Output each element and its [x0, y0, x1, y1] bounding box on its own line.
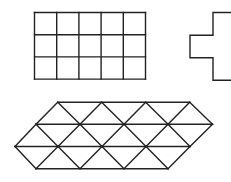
- triangle-diagonal-down-left: [36, 102, 58, 124]
- triangle-diagonal-down-right: [15, 147, 36, 169]
- cross-figure: [190, 13, 231, 81]
- triangle-diagonal-down-left: [190, 124, 213, 146]
- triangle-diagonal-down-left: [58, 124, 80, 146]
- triangle-diagonal-down-right: [146, 147, 168, 169]
- triangle-diagonal-down-left: [146, 124, 168, 146]
- triangle-diagonal-down-left: [80, 102, 102, 124]
- triangle-diagonal-down-left: [124, 147, 146, 169]
- cross-outline: [190, 13, 231, 81]
- triangle-diagonal-down-left: [36, 147, 58, 169]
- triangle-diagonal-down-right: [146, 102, 168, 124]
- triangle-diagonal-down-right: [80, 124, 102, 146]
- triangle-diagonal-down-right: [58, 102, 80, 124]
- triangle-diagonal-down-right: [168, 124, 190, 146]
- triangle-diagonal-down-left: [102, 124, 124, 146]
- triangle-diagonal-down-left: [168, 147, 190, 169]
- triangle-diagonal-down-left: [168, 102, 190, 124]
- diagram-canvas: [0, 0, 231, 182]
- triangle-diagonal-down-right: [190, 102, 213, 124]
- triangle-diagonal-down-right: [102, 102, 124, 124]
- triangle-grid-figure: [15, 102, 213, 169]
- triangle-diagonal-down-left: [15, 124, 36, 146]
- triangle-diagonal-down-right: [124, 124, 146, 146]
- square-grid-figure: [35, 13, 146, 80]
- triangle-diagonal-down-right: [36, 124, 58, 146]
- triangle-diagonal-down-left: [80, 147, 102, 169]
- triangle-diagonal-down-right: [102, 147, 124, 169]
- triangle-diagonal-down-left: [124, 102, 146, 124]
- triangle-diagonal-down-right: [58, 147, 80, 169]
